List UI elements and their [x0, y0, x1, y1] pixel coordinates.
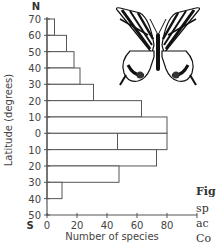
- x-axis-label: Number of species: [65, 231, 159, 242]
- y-tick-label: 0: [35, 128, 41, 139]
- latitude-species-chart: 7060504030201001020304050 020406080 Lati…: [0, 0, 224, 245]
- y-tick-label: 30: [28, 177, 41, 188]
- x-tick-label: 40: [101, 220, 114, 231]
- x-ticks: 020406080: [44, 213, 197, 231]
- bar-0-10S: [47, 133, 167, 149]
- caption-line-4: Co: [196, 233, 211, 244]
- bar-30S-40S: [47, 182, 62, 198]
- x-tick-label: 60: [131, 220, 144, 231]
- bar-60N-50N: [47, 35, 67, 51]
- y-tick-label: 60: [28, 30, 41, 41]
- butterfly-illustration: [116, 8, 199, 85]
- caption-line-2: sp: [196, 203, 209, 214]
- y-tick-label: 50: [28, 47, 41, 58]
- bar-20N-10N: [47, 101, 142, 117]
- y-tick-label: 10: [28, 112, 41, 123]
- bar-10S-20S: [47, 150, 157, 166]
- bar-70N-60N: [47, 19, 55, 35]
- y-tick-label: 70: [28, 14, 41, 25]
- y-tick-label: 30: [28, 79, 41, 90]
- y-axis-label: Latitude (degrees): [3, 74, 14, 166]
- bar-40N-30N: [47, 68, 80, 84]
- south-marker: S: [26, 220, 33, 231]
- y-tick-label: 40: [28, 194, 41, 205]
- caption-line-1: Fig: [196, 186, 216, 197]
- caption-line-3: ac: [196, 218, 209, 229]
- north-marker: N: [32, 1, 40, 12]
- bar-20S-30S: [47, 166, 119, 182]
- bar-50N-40N: [47, 52, 74, 68]
- x-tick-label: 80: [161, 220, 174, 231]
- y-tick-label: 20: [28, 161, 41, 172]
- y-tick-label: 40: [28, 63, 41, 74]
- bar-10N-0: [47, 117, 167, 133]
- x-tick-label: 0: [44, 220, 50, 231]
- bar-30N-20N: [47, 84, 94, 100]
- x-tick-label: 20: [71, 220, 84, 231]
- y-tick-label: 20: [28, 96, 41, 107]
- y-tick-label: 10: [28, 145, 41, 156]
